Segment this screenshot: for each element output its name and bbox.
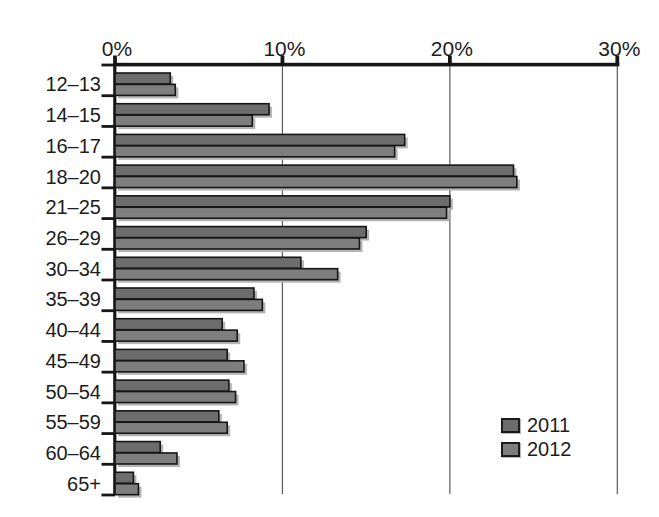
legend: 2011 2012 [501, 415, 572, 460]
y-tick-10 [102, 371, 116, 374]
y-tick-3 [102, 156, 116, 159]
category-label-30–34: 30–34 [45, 258, 101, 280]
bar-2011-55–59 [115, 411, 219, 422]
bar-2012-26–29 [115, 238, 359, 249]
bar-2011-60–64 [115, 442, 160, 453]
bar-2012-50–54 [115, 392, 236, 403]
y-tick-2 [102, 125, 116, 128]
bar-2011-50–54 [115, 380, 229, 391]
bar-2012-65+ [115, 484, 138, 495]
legend-label-2012: 2012 [527, 439, 572, 460]
category-label-26–29: 26–29 [45, 227, 101, 249]
bar-2012-12–13 [115, 84, 175, 95]
y-tick-13 [102, 463, 116, 466]
bar-2011-35–39 [115, 288, 254, 299]
bar-2011-21–25 [115, 196, 450, 207]
legend-swatch-2011 [501, 418, 520, 433]
y-tick-7 [102, 279, 116, 282]
bar-2012-40–44 [115, 330, 237, 341]
bar-2011-14–15 [115, 104, 269, 115]
y-tick-5 [102, 217, 116, 220]
x-tick-label-20: 20% [431, 37, 473, 60]
x-tick-label-0: 0% [102, 37, 132, 60]
bar-2012-18–20 [115, 177, 517, 188]
bar-2012-45–49 [115, 361, 244, 372]
category-label-40–44: 40–44 [45, 319, 101, 341]
category-label-16–17: 16–17 [45, 135, 101, 157]
bar-2011-30–34 [115, 257, 301, 268]
legend-item-2012: 2012 [501, 439, 572, 460]
category-label-14–15: 14–15 [45, 104, 101, 126]
y-tick-6 [102, 248, 116, 251]
category-label-21–25: 21–25 [45, 196, 101, 218]
category-label-60–64: 60–64 [45, 442, 101, 464]
y-tick-12 [102, 432, 116, 435]
x-axis-line [113, 63, 619, 67]
category-label-18–20: 18–20 [45, 166, 101, 188]
category-label-45–49: 45–49 [45, 350, 101, 372]
legend-item-2011: 2011 [501, 415, 572, 436]
category-label-12–13: 12–13 [45, 73, 101, 95]
bar-2011-65+ [115, 472, 133, 483]
bar-2011-12–13 [115, 73, 170, 84]
category-label-35–39: 35–39 [45, 288, 101, 310]
bar-2011-26–29 [115, 227, 366, 238]
category-label-50–54: 50–54 [45, 381, 101, 403]
x-tick-label-30: 30% [598, 37, 640, 60]
bar-2011-45–49 [115, 349, 227, 360]
category-label-65+: 65+ [67, 473, 101, 495]
bar-2012-55–59 [115, 422, 227, 433]
bar-2012-21–25 [115, 207, 447, 218]
bar-2011-40–44 [115, 319, 222, 330]
bar-2012-60–64 [115, 453, 177, 464]
category-label-55–59: 55–59 [45, 411, 101, 433]
y-tick-1 [102, 94, 116, 97]
bar-2012-16–17 [115, 146, 395, 157]
x-tick-label-10: 10% [263, 37, 305, 60]
y-tick-0 [102, 64, 116, 67]
y-tick-11 [102, 401, 116, 404]
bar-2012-30–34 [115, 269, 338, 280]
bar-2011-18–20 [115, 165, 513, 176]
legend-label-2011: 2011 [527, 415, 570, 436]
y-tick-9 [102, 340, 116, 343]
bar-2012-35–39 [115, 299, 262, 310]
y-tick-14 [102, 494, 116, 497]
bar-2012-14–15 [115, 115, 252, 126]
y-tick-4 [102, 186, 116, 189]
bar-2011-16–17 [115, 134, 405, 145]
legend-swatch-2012 [501, 442, 520, 457]
y-tick-8 [102, 309, 116, 312]
age-distribution-bar-chart: 0%10%20%30%12–1314–1516–1718–2021–2526–2… [0, 0, 659, 517]
